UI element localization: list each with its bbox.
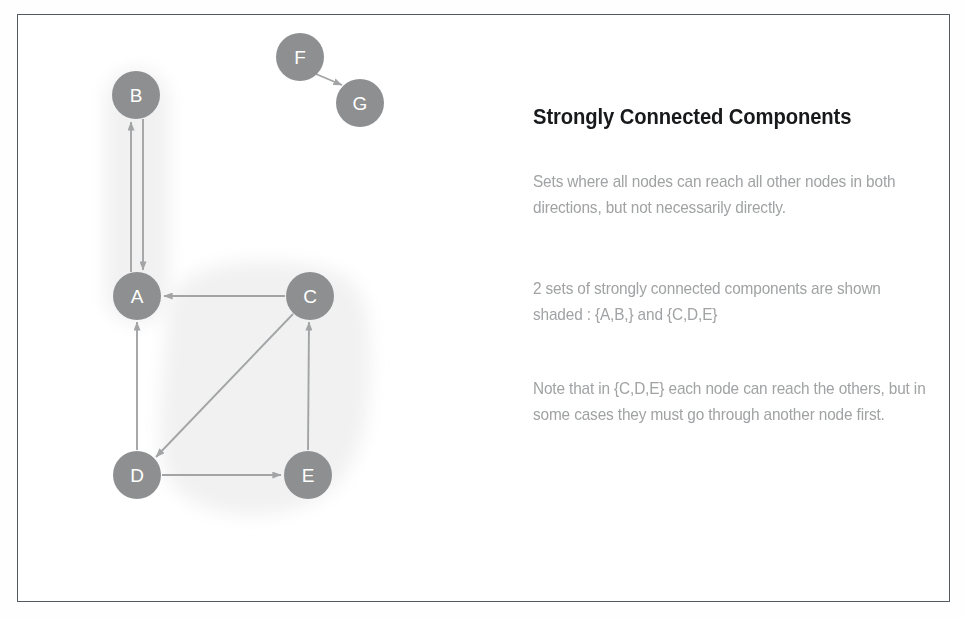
graph-node-d[interactable]: D (113, 451, 161, 499)
graph-node-e[interactable]: E (284, 451, 332, 499)
graph-node-a[interactable]: A (113, 272, 161, 320)
graph-node-f-label: F (294, 47, 306, 68)
edge-f-to-g (316, 74, 342, 85)
page-canvas: B F G A C D (0, 0, 965, 618)
panel-paragraph-note: Note that in {C,D,E} each node can reach… (533, 376, 932, 427)
edge-e-to-c (308, 322, 309, 450)
graph-node-d-label: D (130, 465, 144, 486)
graph-node-a-label: A (131, 286, 144, 307)
graph-node-c[interactable]: C (286, 272, 334, 320)
graph-node-e-label: E (302, 465, 315, 486)
graph-node-g[interactable]: G (336, 79, 384, 127)
panel-paragraph-definition: Sets where all nodes can reach all other… (533, 169, 932, 220)
graph-node-c-label: C (303, 286, 317, 307)
shaded-component-cde (160, 261, 370, 514)
explanation-panel: Strongly Connected Components Sets where… (533, 104, 933, 130)
graph-node-f[interactable]: F (276, 33, 324, 81)
panel-paragraph-sets: 2 sets of strongly connected components … (533, 276, 932, 327)
graph-node-b[interactable]: B (112, 71, 160, 119)
graph-node-b-label: B (130, 85, 143, 106)
graph-node-g-label: G (353, 93, 368, 114)
page-title: Strongly Connected Components (533, 104, 909, 130)
